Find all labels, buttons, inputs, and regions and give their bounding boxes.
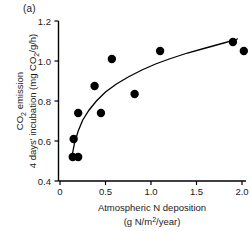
y-axis-title: CO2 emission 4 days' incubation (mg CO2/…: [14, 34, 40, 169]
y-tick-label-0: 0.4: [38, 176, 51, 187]
figure-panel-a: (a) 0.4 0.6 0.8 1.0 1.2: [0, 0, 252, 231]
data-point: [69, 135, 77, 143]
y-tick-label-1: 0.6: [38, 136, 51, 147]
svg-text:CO2 emission: CO2 emission: [14, 72, 27, 130]
svg-text:Atmospheric N deposition: Atmospheric N deposition: [98, 202, 206, 213]
x-tick-label-2: 1.0: [144, 186, 157, 197]
x-axis-title-line2-post: /year): [156, 216, 180, 227]
data-points-group: [69, 38, 248, 161]
y-tick-label-2: 0.8: [38, 96, 51, 107]
data-point: [130, 90, 138, 98]
y-axis-title-line1-post: emission: [14, 72, 25, 112]
fitted-curve: [72, 39, 238, 157]
y-axis: 0.4 0.6 0.8 1.0 1.2: [38, 16, 59, 187]
x-tick-label-3: 1.5: [190, 186, 203, 197]
panel-label: (a): [23, 3, 36, 14]
data-point: [240, 47, 248, 55]
x-tick-label-1: 0.5: [99, 186, 112, 197]
x-tick-label-0: 0: [57, 186, 62, 197]
data-point: [229, 38, 237, 46]
svg-text:(g N/m2/year): (g N/m2/year): [124, 216, 181, 228]
data-point: [97, 109, 105, 117]
data-point: [74, 109, 82, 117]
data-point: [156, 47, 164, 55]
y-axis-title-line2-post: /g/h): [27, 34, 38, 53]
x-tick-label-4: 2.0: [235, 186, 248, 197]
y-tick-label-3: 1.0: [38, 56, 51, 67]
x-axis: 0 0.5 1.0 1.5 2.0: [57, 181, 248, 197]
x-axis-title-line1: Atmospheric N deposition: [98, 202, 206, 213]
data-point: [90, 82, 98, 90]
x-axis-title-line2-pre: (g N/m: [124, 216, 153, 227]
scatter-chart: 0.4 0.6 0.8 1.0 1.2 0 0.5 1.0 1.5 2.0 At…: [0, 0, 252, 231]
x-axis-title: Atmospheric N deposition (g N/m2/year): [98, 202, 206, 227]
data-point: [74, 153, 82, 161]
y-axis-title-line2-pre: 4 days' incubation (mg CO: [27, 57, 38, 169]
data-point: [108, 55, 116, 63]
y-axis-title-line1-pre: CO: [14, 116, 25, 130]
y-tick-label-4: 1.2: [38, 16, 51, 27]
